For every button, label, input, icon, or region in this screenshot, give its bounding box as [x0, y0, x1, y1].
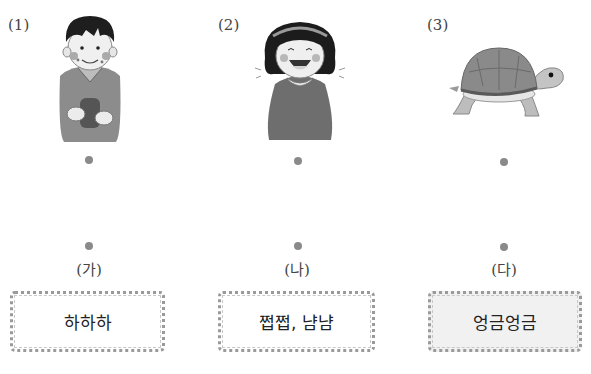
answer-text-2: 쩝쩝, 냠냠: [259, 309, 334, 334]
match-dot-bottom-1[interactable]: [85, 242, 93, 250]
item-number-2: (2): [218, 16, 239, 34]
item-number-3: (3): [427, 16, 448, 34]
match-dot-top-2[interactable]: [294, 157, 302, 165]
answer-label-3: (다): [474, 258, 534, 279]
match-dot-top-3[interactable]: [500, 158, 508, 166]
item-number-1: (1): [8, 16, 29, 34]
turtle-icon: [447, 44, 567, 120]
match-dot-top-1[interactable]: [85, 156, 93, 164]
boy-eating-icon: [50, 14, 130, 144]
girl-laughing-icon: [255, 18, 345, 143]
answer-text-3: 엉금엉금: [473, 309, 537, 334]
answer-card-3: 엉금엉금: [428, 291, 582, 352]
answer-text-1: 하하하: [64, 309, 112, 334]
match-dot-bottom-2[interactable]: [294, 242, 302, 250]
answer-label-1: (가): [59, 258, 119, 279]
match-dot-bottom-3[interactable]: [500, 243, 508, 251]
answer-card-1: 하하하: [10, 291, 165, 352]
answer-label-2: (나): [267, 258, 327, 279]
answer-card-2: 쩝쩝, 냠냠: [218, 291, 375, 352]
